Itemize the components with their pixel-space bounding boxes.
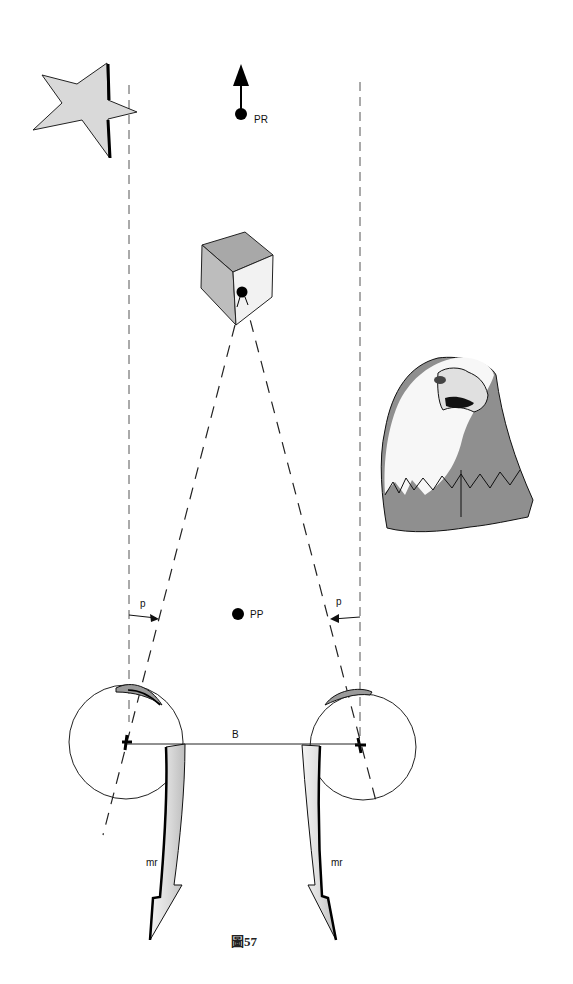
mr-left-label: mr	[146, 857, 158, 868]
right-mr-arrow: mr	[302, 745, 343, 940]
baseline-label: B	[232, 729, 239, 740]
left-mr-arrow: mr	[146, 744, 185, 940]
pp-marker: PP	[232, 608, 264, 620]
p-marker-right: p	[330, 596, 360, 623]
figure-caption: 圖57	[231, 934, 258, 949]
p-left-label: p	[140, 598, 146, 609]
pp-label: PP	[250, 609, 264, 620]
p-marker-left: p	[129, 598, 159, 622]
stereo-vision-diagram: PR p p PP	[0, 0, 573, 984]
cube-icon	[201, 232, 273, 325]
pr-label: PR	[254, 114, 268, 125]
pr-marker: PR	[233, 64, 268, 125]
right-sight-line	[245, 300, 377, 805]
eagle-head-icon	[381, 357, 533, 531]
star-icon	[33, 62, 138, 160]
p-right-label: p	[336, 596, 342, 607]
mr-right-label: mr	[331, 857, 343, 868]
right-eye	[310, 689, 416, 800]
baseline: B	[127, 729, 360, 744]
